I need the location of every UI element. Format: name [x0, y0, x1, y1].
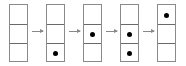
grid-cell [47, 5, 64, 24]
grid-cell [10, 5, 27, 24]
grid-cell [10, 24, 27, 43]
state-column-5 [157, 4, 176, 62]
dot-icon [164, 13, 169, 18]
arrow-right-icon [69, 31, 80, 32]
dot-icon [127, 51, 132, 56]
grid-cell [10, 43, 27, 62]
grid-cell [121, 43, 138, 62]
state-column-2 [46, 4, 65, 62]
dot-icon [90, 32, 95, 37]
grid-cell [158, 5, 175, 24]
dot-icon [53, 51, 58, 56]
grid-cell [47, 43, 64, 62]
grid-cell [84, 5, 101, 24]
arrow-right-icon [106, 31, 117, 32]
grid-cell [84, 24, 101, 43]
arrow-right-icon [143, 31, 154, 32]
grid-cell [158, 43, 175, 62]
state-column-1 [9, 4, 28, 62]
state-column-4 [120, 4, 139, 62]
grid-cell [84, 43, 101, 62]
grid-cell [121, 5, 138, 24]
grid-cell [158, 24, 175, 43]
state-column-3 [83, 4, 102, 62]
arrow-right-icon [32, 31, 43, 32]
grid-cell [47, 24, 64, 43]
dot-icon [127, 32, 132, 37]
grid-cell [121, 24, 138, 43]
